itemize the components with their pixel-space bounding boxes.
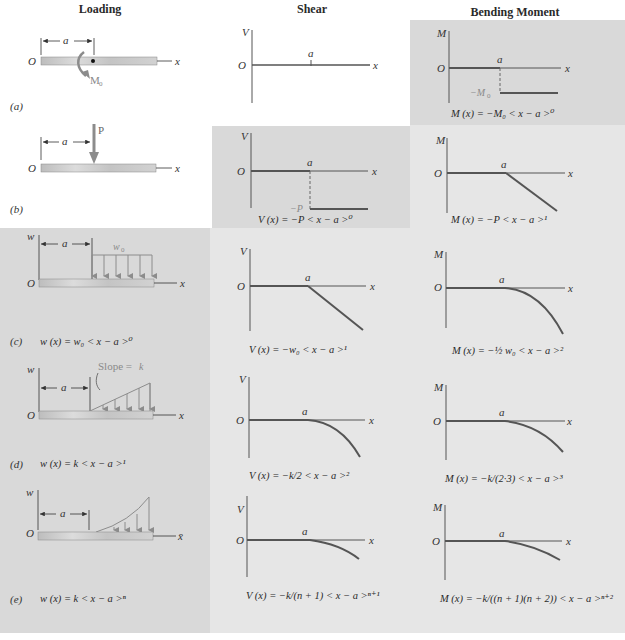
row-tag-a: (a): [10, 100, 23, 112]
loading-equation-e: w (x) = k < x − a >ⁿ: [40, 593, 126, 604]
shear-equation-c: V (x) = −w₀ < x − a >¹: [249, 344, 347, 355]
svg-text:O: O: [237, 280, 245, 292]
shear-e-graph: V O a x: [236, 496, 374, 577]
svg-text:a: a: [61, 381, 67, 393]
svg-text:w: w: [27, 230, 35, 242]
svg-text:0: 0: [487, 92, 491, 100]
moment-equation-e: M (x) = −k/((n + 1)(n + 2)) < x − a >ⁿ⁺²: [440, 592, 613, 604]
svg-text:O: O: [27, 277, 35, 289]
beam: [41, 57, 157, 65]
row-tag-b: (b): [10, 203, 23, 215]
svg-text:V: V: [237, 503, 245, 515]
row-tag-c: (c): [10, 335, 22, 347]
loading-d-linear: w a Slope = k O x: [27, 360, 184, 421]
x-bar-label: x̄: [177, 530, 183, 542]
svg-text:a: a: [302, 405, 308, 417]
svg-text:V: V: [240, 245, 248, 257]
dim-a-label: a: [63, 34, 69, 46]
svg-text:M: M: [433, 248, 444, 260]
svg-text:O: O: [434, 167, 442, 179]
moment-equation-c: M (x) = −½ w₀ < x − a >²: [452, 345, 563, 356]
svg-text:x: x: [371, 165, 377, 177]
beam: [39, 411, 153, 419]
loading-a-couple: a O x M 0: [28, 34, 180, 88]
svg-text:x: x: [369, 280, 375, 292]
svg-text:a: a: [499, 406, 505, 418]
svg-text:x: x: [567, 282, 573, 294]
svg-text:x: x: [174, 55, 180, 67]
svg-text:a: a: [499, 273, 505, 285]
svg-text:x: x: [179, 277, 185, 289]
svg-text:O: O: [236, 414, 244, 426]
svg-text:a: a: [305, 271, 311, 283]
svg-text:O: O: [434, 281, 442, 293]
moment-a-graph: M O a x −M 0: [436, 27, 570, 103]
shear-a-graph: V O a x: [238, 26, 378, 103]
loading-equation-d: w (x) = k < x − a >¹: [40, 458, 126, 469]
svg-text:V: V: [242, 26, 250, 38]
moment-b-graph: M O a x: [434, 134, 573, 213]
shear-c-graph: V O a x: [237, 245, 375, 331]
svg-text:k: k: [139, 361, 144, 372]
beam: [39, 279, 154, 287]
svg-text:M: M: [436, 27, 447, 39]
svg-text:O: O: [432, 535, 440, 547]
svg-text:x: x: [368, 414, 374, 426]
svg-text:x: x: [372, 59, 378, 71]
svg-text:w: w: [26, 486, 34, 498]
svg-text:O: O: [238, 59, 246, 71]
moment-equation-b: M (x) = −P < x − a >¹: [451, 214, 547, 225]
loading-c-uniform: w a w 0 O x: [27, 230, 185, 289]
svg-text:O: O: [27, 409, 35, 421]
loading-b-point: a P O x: [28, 124, 180, 174]
svg-text:V: V: [241, 130, 249, 142]
svg-text:a: a: [308, 47, 314, 59]
svg-text:x: x: [567, 167, 573, 179]
svg-text:0: 0: [121, 246, 125, 254]
moment-c-graph: M O a x: [433, 248, 573, 334]
loading-equation-c: w (x) = w₀ < x − a >⁰: [40, 335, 133, 347]
moment-d-graph: M O a x: [433, 381, 572, 460]
svg-text:V: V: [239, 373, 247, 385]
svg-text:x: x: [565, 535, 571, 547]
svg-text:a: a: [60, 507, 66, 519]
svg-text:O: O: [26, 527, 34, 539]
svg-text:a: a: [62, 135, 68, 147]
svg-text:a: a: [499, 527, 505, 539]
moment-e-graph: M O a x: [432, 501, 571, 580]
svg-text:x: x: [564, 62, 570, 74]
linear-load-icon: [90, 383, 150, 411]
row-tag-d: (d): [10, 458, 23, 470]
shear-equation-b: V (x) = −P < x − a >⁰: [258, 213, 353, 225]
loading-e-power: w a O x̄: [26, 486, 183, 542]
svg-text:x: x: [566, 415, 572, 427]
moment-equation-d: M (x) = −k/(2·3) < x − a >³: [445, 473, 563, 484]
svg-text:Slope =: Slope =: [98, 360, 132, 372]
svg-text:O: O: [433, 415, 441, 427]
uniform-load-arrows-icon: [92, 255, 152, 276]
row-tag-e: (e): [10, 593, 22, 605]
svg-text:M: M: [433, 381, 444, 393]
svg-text:x: x: [368, 534, 374, 546]
moment-equation-a: M (x) = −M₀ < x − a >⁰: [451, 107, 554, 119]
svg-text:a: a: [307, 156, 313, 168]
svg-text:a: a: [497, 53, 503, 65]
svg-text:a: a: [501, 158, 507, 170]
svg-text:P: P: [98, 124, 104, 136]
svg-text:O: O: [28, 162, 36, 174]
svg-text:0: 0: [99, 80, 103, 88]
svg-text:w: w: [27, 363, 35, 375]
svg-text:a: a: [62, 237, 68, 249]
svg-text:M: M: [432, 501, 443, 513]
power-load-icon: [96, 497, 149, 532]
svg-text:O: O: [236, 534, 244, 546]
shear-equation-d: V (x) = −k/2 < x − a >²: [249, 470, 349, 481]
shear-d-graph: V O a x: [236, 373, 374, 458]
diagram-canvas: a O x M 0 V O a x M O a x −M 0: [0, 0, 625, 640]
svg-text:O: O: [237, 165, 245, 177]
svg-text:x: x: [178, 409, 184, 421]
shear-equation-e: V (x) = −k/(n + 1) < x − a >ⁿ⁺¹: [246, 589, 380, 601]
svg-text:M: M: [435, 134, 446, 146]
svg-text:w: w: [113, 241, 120, 252]
beam: [38, 532, 153, 540]
